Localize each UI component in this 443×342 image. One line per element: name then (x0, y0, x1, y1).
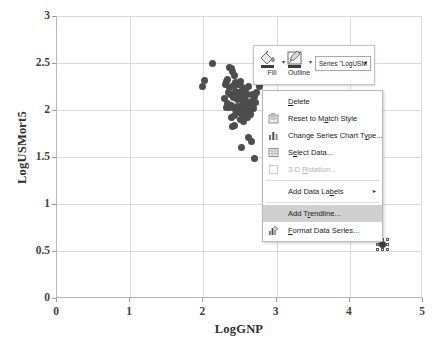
paint-bucket-icon: ▾ (258, 49, 286, 69)
y-tick-label: 3 (8, 10, 50, 22)
data-point[interactable] (252, 99, 259, 106)
plot-top-border (57, 16, 422, 17)
menu-item-select-data[interactable]: Select Data... (263, 144, 382, 161)
x-tick-label: 5 (407, 306, 437, 318)
data-point[interactable] (228, 114, 235, 121)
data-point[interactable] (230, 82, 237, 89)
y-tick-label: 2 (8, 104, 50, 116)
fill-button[interactable]: ▾ Fill (258, 48, 286, 84)
series-selector-dropdown[interactable]: Series "LogUSM ▾ (315, 56, 371, 71)
data-point[interactable] (231, 72, 238, 79)
data-point[interactable] (199, 83, 206, 90)
y-tick-mark (52, 204, 56, 205)
menu-item-label: Select Data... (288, 148, 333, 157)
x-tick-label: 4 (334, 306, 364, 318)
menu-item-label: Reset to Match Style (288, 114, 357, 123)
selection-handle[interactable] (386, 243, 389, 246)
reset-style-icon (268, 113, 279, 124)
y-tick-mark (52, 110, 56, 111)
y-tick-mark (52, 251, 56, 252)
gridline-horizontal (57, 251, 422, 252)
x-tick-label: 1 (114, 306, 144, 318)
fill-label: Fill (258, 69, 286, 77)
selection-handle[interactable] (381, 248, 384, 251)
chart-type-icon (268, 130, 279, 141)
mini-toolbar[interactable]: ▾ Fill ▾ Outline Series "LogUSM ▾ (253, 45, 375, 85)
selection-handle[interactable] (376, 248, 379, 251)
menu-item-change-series-chart-type[interactable]: Change Series Chart Type... (263, 127, 382, 144)
x-tick-label: 3 (261, 306, 291, 318)
outline-caret-icon[interactable]: ▾ (309, 58, 312, 65)
menu-item-3-d-rotation: 3-D Rotation... (263, 161, 382, 178)
menu-item-add-trendline[interactable]: Add Trendline... (263, 205, 382, 222)
data-point[interactable] (209, 60, 216, 67)
series-selector-value: Series "LogUSM (319, 60, 367, 67)
menu-item-label: Change Series Chart Type... (288, 131, 383, 140)
select-data-icon (268, 147, 279, 158)
y-tick-label: 0.5 (8, 245, 50, 257)
y-tick-label: 0 (8, 292, 50, 304)
x-tick-mark (129, 298, 130, 302)
data-point[interactable] (223, 104, 230, 111)
selection-handle[interactable] (376, 243, 379, 246)
submenu-arrow-icon[interactable]: ▸ (373, 183, 376, 200)
menu-separator (266, 202, 379, 203)
gridline-vertical (130, 16, 131, 297)
y-tick-label: 2.5 (8, 57, 50, 69)
y-axis-title: LogUSMort5 (15, 78, 30, 218)
rotation-3d-icon (268, 164, 279, 175)
selection-handle[interactable] (386, 238, 389, 241)
y-tick-mark (52, 16, 56, 17)
format-series-icon (268, 225, 279, 236)
menu-item-add-data-labels[interactable]: Add Data Labels▸ (263, 183, 382, 200)
outline-button[interactable]: ▾ Outline (285, 48, 313, 84)
menu-item-reset-to-match-style[interactable]: Reset to Match Style (263, 110, 382, 127)
x-tick-mark (422, 298, 423, 302)
menu-item-format-data-series[interactable]: Format Data Series... (263, 222, 382, 239)
data-point[interactable] (229, 123, 236, 130)
menu-item-label: Add Trendline... (288, 209, 341, 218)
x-tick-mark (56, 298, 57, 302)
data-point[interactable] (247, 111, 254, 118)
pencil-outline-icon: ▾ (285, 49, 313, 69)
x-tick-label: 2 (187, 306, 217, 318)
x-tick-label: 0 (41, 306, 71, 318)
x-tick-mark (202, 298, 203, 302)
menu-item-label: Add Data Labels (288, 187, 343, 196)
y-tick-label: 1 (8, 198, 50, 210)
data-point[interactable] (248, 138, 255, 145)
gridline-vertical (203, 16, 204, 297)
y-tick-label: 1.5 (8, 151, 50, 163)
chevron-down-icon[interactable]: ▾ (364, 57, 367, 70)
y-tick-mark (52, 157, 56, 158)
outline-label: Outline (285, 69, 313, 77)
x-axis-title: LogGNP (56, 322, 422, 337)
menu-separator (266, 180, 379, 181)
x-tick-mark (276, 298, 277, 302)
data-point[interactable] (245, 83, 252, 90)
menu-item-label: 3-D Rotation... (288, 165, 336, 174)
x-tick-mark (349, 298, 350, 302)
context-menu[interactable]: DeleteReset to Match StyleChange Series … (262, 90, 383, 242)
data-point[interactable] (249, 91, 256, 98)
y-tick-mark (52, 63, 56, 64)
menu-item-label: Format Data Series... (288, 226, 359, 235)
selection-handle[interactable] (386, 248, 389, 251)
data-point[interactable] (238, 144, 245, 151)
data-point[interactable] (251, 155, 258, 162)
menu-item-delete[interactable]: Delete (263, 93, 382, 110)
menu-item-label: Delete (288, 97, 310, 106)
